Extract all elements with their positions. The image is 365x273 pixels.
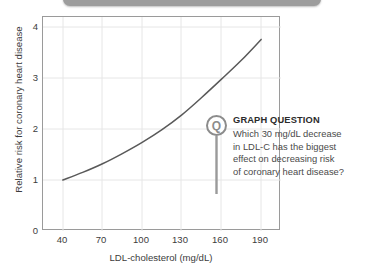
callout-question-text: Which 30 mg/dL decrease in LDL-C has the… — [233, 128, 365, 178]
x-tick-100: 100 — [121, 234, 161, 245]
x-tick-130: 130 — [160, 234, 200, 245]
question-line-2: in LDL-C has the biggest — [233, 141, 365, 154]
x-tick-40: 40 — [42, 234, 82, 245]
x-tick-labels: 40 70 100 130 160 190 — [42, 234, 280, 250]
callout-title: GRAPH QUESTION — [233, 115, 365, 125]
callout-body: GRAPH QUESTION Which 30 mg/dL decrease i… — [233, 115, 365, 178]
graph-question-callout: Q GRAPH QUESTION Which 30 mg/dL decrease… — [203, 112, 365, 208]
question-mark-icon: Q — [206, 115, 227, 136]
y-tick-0: 0 — [12, 225, 38, 236]
figure-root: Relative risk for coronary heart disease… — [0, 0, 365, 273]
x-tick-190: 190 — [240, 234, 280, 245]
y-tick-4: 4 — [12, 21, 38, 32]
y-tick-3: 3 — [12, 72, 38, 83]
x-tick-160: 160 — [200, 234, 240, 245]
question-line-3: effect on decreasing risk — [233, 153, 365, 166]
y-tick-2: 2 — [12, 123, 38, 134]
question-line-1: Which 30 mg/dL decrease — [233, 128, 365, 141]
question-line-4: of coronary heart disease? — [233, 166, 365, 179]
x-tick-70: 70 — [81, 234, 121, 245]
y-tick-labels: 0 1 2 3 4 — [8, 16, 38, 230]
y-tick-1: 1 — [12, 174, 38, 185]
x-axis-label: LDL-cholesterol (mg/dL) — [42, 252, 280, 263]
